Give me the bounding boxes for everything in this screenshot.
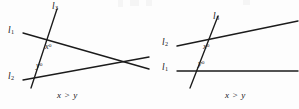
label-line-l1-left: l1 — [8, 26, 14, 36]
figure-root: l3 l1 l2 xo yo x > y l3 l2 — [0, 0, 299, 109]
label-angle-x-left: xo — [45, 43, 52, 51]
label-line-l3-left: l3 — [52, 2, 58, 12]
label-line-l3-right: l3 — [213, 12, 219, 22]
diagram-panel-right: l3 l2 l1 xo yo x > y — [150, 0, 299, 109]
line-l2-right — [177, 21, 298, 46]
label-angle-x-right: xo — [203, 43, 210, 51]
label-line-l1-right: l1 — [162, 63, 168, 73]
label-line-l2-right: l2 — [162, 38, 168, 48]
label-angle-y-left: yo — [36, 62, 43, 70]
diagram-panel-left: l3 l1 l2 xo yo x > y — [0, 0, 150, 109]
label-angle-y-right: yo — [198, 60, 205, 68]
caption-left: x > y — [57, 90, 78, 100]
label-line-l2-left: l2 — [8, 72, 14, 82]
line-l3-right — [190, 16, 218, 88]
caption-right: x > y — [225, 90, 246, 100]
